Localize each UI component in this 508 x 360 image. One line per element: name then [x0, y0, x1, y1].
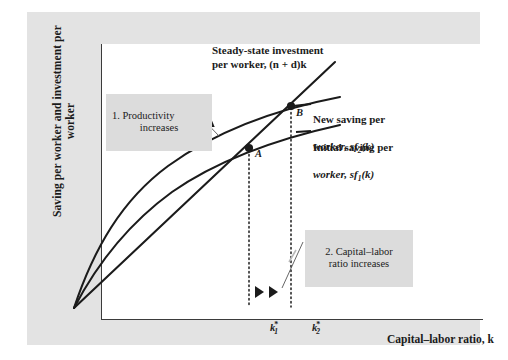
point-label-b: B [296, 107, 303, 118]
label-initial-saving-curve: Initial saving per worker, sf1(k) [313, 127, 393, 185]
new-saving-line1: New saving per [313, 113, 385, 125]
callout-capital-line1: 2. Capital–labor [325, 246, 393, 257]
callout-productivity: 1. Productivity increases [106, 94, 212, 151]
x-tick-k2-star: k*2 [312, 322, 325, 336]
y-axis-label: Saving per worker and investment per wor… [51, 14, 77, 229]
callout-productivity-line2: increases [112, 122, 206, 135]
label-steady-state-investment: Steady-state investment per worker, (n +… [212, 44, 324, 71]
tick-k1-subscript: 1 [274, 327, 278, 336]
callout-capital-line2: ratio increases [311, 258, 407, 271]
callout-productivity-line1: 1. Productivity [112, 110, 174, 121]
initial-saving-line1: Initial saving per [313, 141, 393, 153]
plot-area [101, 44, 483, 320]
initial-saving-line2: worker, sf [313, 168, 358, 180]
x-tick-k1-star: k*1 [270, 322, 283, 336]
figure-container: Saving per worker and investment per wor… [0, 0, 508, 360]
initial-saving-tail: (k) [361, 168, 374, 180]
x-axis-label: Capital–labor ratio, k [387, 333, 494, 345]
point-label-a: A [255, 148, 262, 159]
tick-k2-subscript: 2 [316, 327, 320, 336]
callout-capital-labor: 2. Capital–labor ratio increases [305, 230, 413, 287]
